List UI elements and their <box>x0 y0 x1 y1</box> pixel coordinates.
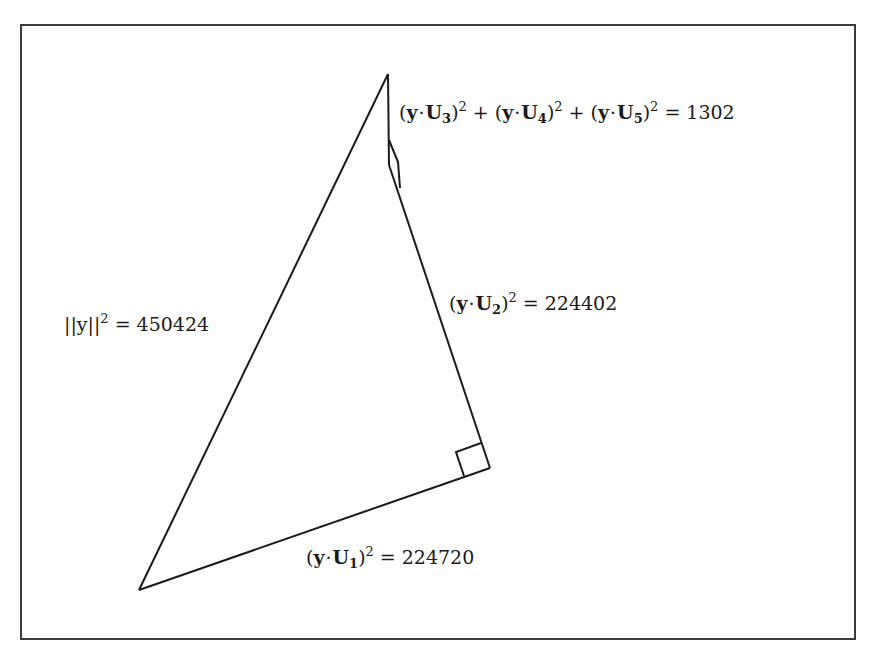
residual-value: 1302 <box>686 101 734 123</box>
u1-label: (y·U1)2=224720 <box>306 548 474 567</box>
u2-label: (y·U2)2=224402 <box>449 294 617 313</box>
u2-value: 224402 <box>545 292 618 314</box>
hypotenuse-value: 450424 <box>137 313 210 335</box>
hypotenuse-label: ||y||2=450424 <box>64 315 209 334</box>
residual-edge <box>388 74 389 165</box>
u1-value: 224720 <box>402 546 475 568</box>
norm-y: ||y|| <box>64 313 100 335</box>
u2-edge <box>389 165 490 468</box>
bottom-right-angle-marker <box>456 443 481 476</box>
u1-edge <box>139 468 490 590</box>
triangle-diagram: ||y||2=450424 (y·U2)2=224402 (y·U1)2=224… <box>0 0 876 658</box>
residual-label: (y·U3)2+(y·U4)2+(y·U5)2=1302 <box>399 103 735 122</box>
